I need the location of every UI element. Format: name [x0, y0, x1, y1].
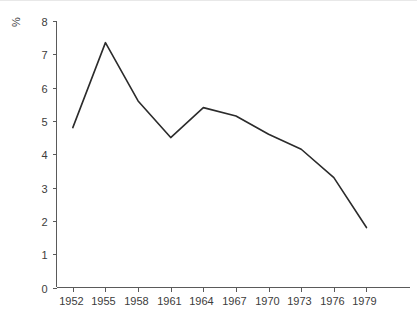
chart-figure: % 012345678 1952195519581961196419671970…	[0, 0, 417, 313]
x-axis: 1952195519581961196419671970197319761979	[57, 288, 411, 307]
x-axis-tick-label: 1952	[59, 295, 83, 307]
data-series-group	[73, 43, 367, 228]
x-axis-tick-label: 1958	[124, 295, 148, 307]
x-axis-tick-label: 1970	[255, 295, 279, 307]
y-axis-ticks	[53, 22, 57, 289]
x-axis-tick-label: 1979	[352, 295, 376, 307]
data-line-series	[73, 43, 367, 228]
y-axis-tick-label: 6	[41, 83, 47, 95]
y-axis-tick-label: 3	[41, 183, 47, 195]
x-axis-tick-label: 1964	[189, 295, 213, 307]
x-axis-tick-label: 1976	[320, 295, 344, 307]
x-axis-tick-label: 1955	[91, 295, 115, 307]
y-axis-title: %	[10, 17, 22, 27]
x-axis-tick-label: 1967	[222, 295, 246, 307]
x-axis-tick-label: 1973	[287, 295, 311, 307]
x-axis-ticks	[74, 288, 367, 292]
y-axis-tick-label: 0	[41, 283, 47, 295]
x-axis-tick-label: 1961	[157, 295, 181, 307]
y-axis-tick-label: 5	[41, 116, 47, 128]
y-axis-tick-label: 7	[41, 49, 47, 61]
y-axis-tick-label: 1	[41, 249, 47, 261]
y-axis-title-group: %	[10, 17, 22, 27]
line-chart-plot: % 012345678 1952195519581961196419671970…	[0, 1, 417, 313]
x-axis-tick-labels: 1952195519581961196419671970197319761979	[59, 295, 376, 307]
y-axis-tick-labels: 012345678	[41, 16, 47, 295]
y-axis-tick-label: 8	[41, 16, 47, 28]
y-axis-tick-label: 4	[41, 149, 47, 161]
y-axis-tick-label: 2	[41, 216, 47, 228]
y-axis: 012345678	[41, 16, 56, 295]
